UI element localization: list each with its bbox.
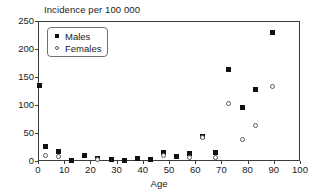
legend-item-females: Females bbox=[52, 42, 101, 54]
data-point-female bbox=[213, 155, 218, 160]
y-tick-label: 200 bbox=[0, 44, 34, 54]
legend-label-females: Females bbox=[62, 43, 101, 54]
data-point-female bbox=[226, 101, 231, 106]
x-tick-mark bbox=[195, 161, 196, 164]
x-tick-mark bbox=[90, 161, 91, 164]
x-tick-mark bbox=[117, 161, 118, 164]
data-point-female bbox=[270, 84, 275, 89]
x-tick-mark bbox=[38, 161, 39, 164]
x-axis-tick-labels: 0102030405060708090100 bbox=[0, 164, 318, 178]
x-tick-mark bbox=[64, 161, 65, 164]
y-tick-label: 150 bbox=[0, 72, 34, 82]
x-tick-label: 100 bbox=[285, 164, 315, 175]
data-point-male bbox=[82, 153, 87, 158]
data-point-male bbox=[253, 87, 258, 92]
data-point-female bbox=[56, 154, 61, 159]
x-tick-mark bbox=[300, 161, 301, 164]
data-point-female bbox=[95, 157, 100, 162]
x-tick-mark bbox=[169, 161, 170, 164]
y-tick-mark bbox=[35, 49, 38, 50]
data-point-male bbox=[109, 157, 114, 162]
data-point-male bbox=[148, 157, 153, 162]
x-tick-mark bbox=[221, 161, 222, 164]
chart-legend: Males Females bbox=[47, 27, 108, 57]
data-point-female bbox=[43, 153, 48, 158]
data-point-female bbox=[253, 123, 258, 128]
chart-title: Incidence per 100 000 bbox=[44, 4, 140, 15]
data-point-female bbox=[240, 137, 245, 142]
y-tick-label: 250 bbox=[0, 16, 34, 26]
x-tick-mark bbox=[143, 161, 144, 164]
x-axis-label: Age bbox=[0, 178, 318, 189]
data-point-male bbox=[37, 83, 42, 88]
data-point-female bbox=[200, 135, 205, 140]
data-point-female bbox=[187, 155, 192, 160]
data-point-male bbox=[69, 158, 74, 163]
x-tick-mark bbox=[274, 161, 275, 164]
chart-figure: Incidence per 100 000 050100150200250 01… bbox=[0, 0, 318, 196]
data-point-male bbox=[270, 30, 275, 35]
data-point-female bbox=[161, 153, 166, 158]
data-point-male bbox=[174, 154, 179, 159]
legend-label-males: Males bbox=[62, 31, 90, 42]
data-point-male bbox=[240, 105, 245, 110]
y-tick-mark bbox=[35, 133, 38, 134]
y-tick-mark bbox=[35, 77, 38, 78]
y-tick-label: 50 bbox=[0, 128, 34, 138]
y-tick-mark bbox=[35, 21, 38, 22]
legend-item-males: Males bbox=[52, 30, 101, 42]
data-point-male bbox=[226, 67, 231, 72]
data-point-male bbox=[122, 158, 127, 163]
x-tick-mark bbox=[248, 161, 249, 164]
open-circle-icon bbox=[52, 46, 62, 50]
y-tick-mark bbox=[35, 105, 38, 106]
data-point-male bbox=[43, 144, 48, 149]
data-point-male bbox=[135, 156, 140, 161]
filled-square-icon bbox=[52, 34, 62, 38]
y-tick-label: 100 bbox=[0, 100, 34, 110]
